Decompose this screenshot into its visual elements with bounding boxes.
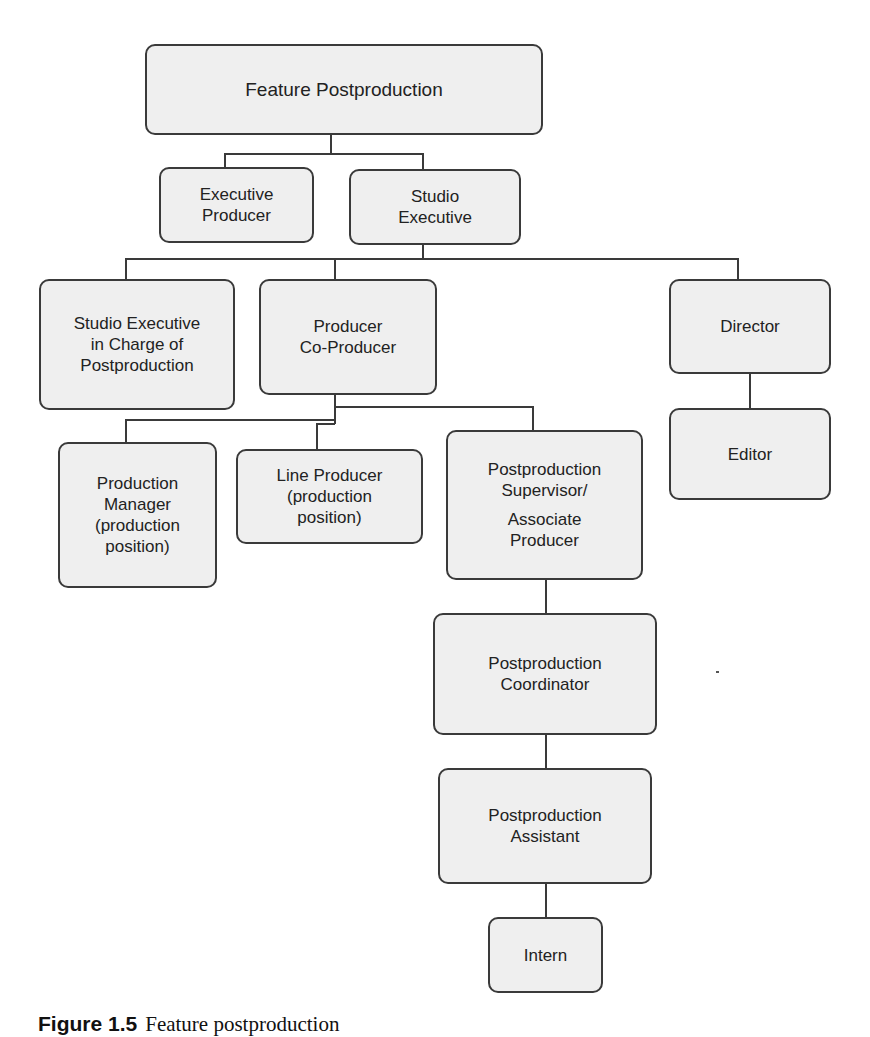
node-postproduction-supervisor: Postproduction Supervisor/ Associate Pro… [446, 430, 643, 580]
connector-level3-bar [125, 258, 738, 260]
node-production-manager: Production Manager (production position) [58, 442, 217, 588]
node-label: Intern [524, 945, 567, 966]
connector-supervisor-coordinator [545, 579, 547, 614]
node-studio-executive: Studio Executive [349, 169, 521, 245]
node-label: Manager [104, 494, 171, 515]
node-label: Director [720, 316, 780, 337]
caption-label: Figure 1.5 [38, 1012, 137, 1035]
connector-line-producer-step [316, 423, 335, 425]
node-executive-producer: Executive Producer [159, 167, 314, 243]
node-label: Line Producer [277, 465, 383, 486]
node-label: Supervisor/ [502, 480, 588, 501]
node-director: Director [669, 279, 831, 374]
node-label: Production [97, 473, 178, 494]
node-label: position) [105, 536, 169, 557]
connector-to-supervisor-bar [334, 406, 533, 408]
node-editor: Editor [669, 408, 831, 500]
node-label: Executive [398, 207, 472, 228]
node-postproduction-coordinator: Postproduction Coordinator [433, 613, 657, 735]
connector-root-down [330, 134, 332, 154]
connector-to-production-manager [125, 419, 127, 443]
node-label: Postproduction [488, 805, 601, 826]
caption-text: Feature postproduction [145, 1012, 339, 1036]
node-label: (production [95, 515, 180, 536]
node-label: Producer [510, 530, 579, 551]
connector-to-studio-exec-post [125, 258, 127, 280]
connector-to-director [737, 258, 739, 280]
node-feature-postproduction: Feature Postproduction [145, 44, 543, 135]
node-label: Studio [411, 186, 459, 207]
node-label: position) [297, 507, 361, 528]
node-intern: Intern [488, 917, 603, 993]
node-label: Producer [314, 316, 383, 337]
node-producer-co-producer: Producer Co-Producer [259, 279, 437, 395]
node-label: Feature Postproduction [245, 79, 443, 100]
connector-studio-executive-down [422, 244, 424, 259]
node-label: Studio Executive [74, 313, 201, 334]
node-label: (production [287, 486, 372, 507]
node-label: Producer [202, 205, 271, 226]
connector-to-manager-bar [125, 419, 335, 421]
connector-coordinator-assistant [545, 734, 547, 769]
connector-to-studio-executive [422, 153, 424, 170]
connector-to-post-supervisor [532, 406, 534, 431]
node-label: Assistant [511, 826, 580, 847]
connector-to-line-producer [316, 423, 318, 450]
node-postproduction-assistant: Postproduction Assistant [438, 768, 652, 884]
node-studio-executive-in-charge-of-postproduction: Studio Executive in Charge of Postproduc… [39, 279, 235, 410]
node-label: Coordinator [501, 674, 590, 695]
connector-to-producer [334, 258, 336, 280]
node-label: Postproduction [80, 355, 193, 376]
node-label: Executive [200, 184, 274, 205]
node-label: Editor [728, 444, 772, 465]
node-label: Postproduction [488, 653, 601, 674]
connector-assistant-intern [545, 883, 547, 918]
node-label: Co-Producer [300, 337, 396, 358]
node-label: Associate [508, 509, 582, 530]
figure-caption: Figure 1.5Feature postproduction [38, 1012, 339, 1037]
scan-speck [716, 671, 719, 673]
node-line-producer: Line Producer (production position) [236, 449, 423, 544]
node-label: Postproduction [488, 459, 601, 480]
connector-to-executive-producer [224, 153, 226, 168]
connector-director-editor [749, 373, 751, 409]
connector-level2-bar [224, 153, 423, 155]
node-label: in Charge of [91, 334, 184, 355]
